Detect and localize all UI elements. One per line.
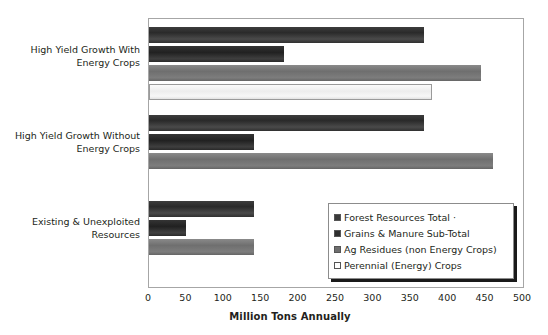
legend: Forest Resources Total · Grains & Manure… [328,203,514,279]
bar-chart: High Yield Growth With Energy Crops High… [0,0,548,335]
bar-group-1-series-1 [149,134,254,150]
x-tick-350: 350 [390,292,430,303]
x-tick-150: 150 [240,292,280,303]
category-label-1-line1: High Yield Growth Without [4,130,140,143]
x-tick-300: 300 [352,292,392,303]
legend-item-0[interactable]: Forest Resources Total · [334,209,507,225]
category-label-0-line2: Energy Crops [4,57,140,70]
category-label-0: High Yield Growth With Energy Crops [4,44,140,69]
x-axis-title: Million Tons Annually [0,311,548,322]
legend-swatch-icon-3 [334,262,341,269]
legend-label-1: Grains & Manure Sub-Total [344,228,470,239]
legend-item-1[interactable]: Grains & Manure Sub-Total [334,225,507,241]
bar-group-0-series-0 [149,27,424,43]
bar-group-1-series-2 [149,153,493,169]
bar-group-0-series-1 [149,46,284,62]
x-tick-250: 250 [315,292,355,303]
legend-item-3[interactable]: Perennial (Energy) Crops [334,257,507,273]
legend-swatch-icon-1 [334,230,341,237]
category-label-2: Existing & Unexploited Resources [4,216,140,241]
category-label-0-line1: High Yield Growth With [4,44,140,57]
legend-swatch-icon-0 [334,214,341,221]
legend-label-0: Forest Resources Total · [344,212,456,223]
legend-item-2[interactable]: Ag Residues (non Energy Crops) [334,241,507,257]
legend-label-3: Perennial (Energy) Crops [344,260,462,271]
bar-group-2-series-1 [149,220,186,236]
x-tick-450: 450 [465,292,505,303]
x-tick-200: 200 [278,292,318,303]
bar-group-2-series-2 [149,239,254,255]
bar-group-0-series-2 [149,65,481,81]
x-tick-500: 500 [502,292,542,303]
x-tick-50: 50 [165,292,205,303]
x-tick-100: 100 [203,292,243,303]
bar-group-0-series-3 [149,84,432,100]
legend-swatch-icon-2 [334,246,341,253]
legend-label-2: Ag Residues (non Energy Crops) [344,244,497,255]
category-label-2-line1: Existing & Unexploited [4,216,140,229]
x-tick-0: 0 [128,292,168,303]
category-label-1: High Yield Growth Without Energy Crops [4,130,140,155]
category-label-2-line2: Resources [4,229,140,242]
bar-group-1-series-0 [149,115,424,131]
bar-group-2-series-0 [149,201,254,217]
category-label-1-line2: Energy Crops [4,143,140,156]
x-tick-400: 400 [427,292,467,303]
